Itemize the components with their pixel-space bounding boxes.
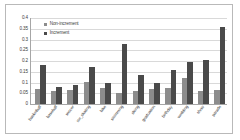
bar [73,85,78,104]
bar-group [179,18,195,104]
legend-item-increment: Increment [44,29,114,38]
x-tick-label: wedding [177,105,190,120]
x-tick-label: baseball [46,105,59,120]
x-axis: basketballbaseballsoccerice_skatingbikes… [31,105,227,134]
x-tick-cell: baseball [47,105,63,134]
legend-label-increment: Increment [50,31,70,36]
y-tick-label: 0 [8,102,28,107]
bar [138,75,143,104]
bar-group [130,18,146,104]
bar-group [212,18,228,104]
y-tick-label: 0.35 [8,26,28,31]
x-tick-label: birthday [161,105,173,119]
bar-group [195,18,211,104]
bar [122,44,127,104]
chart-container: 0.40.350.30.250.20.150.10.050 basketball… [5,4,233,134]
bar [89,67,94,104]
x-tick-cell: wedding [178,105,194,134]
bar [40,65,45,104]
bar-group [163,18,179,104]
x-tick-label: show [197,105,206,115]
bar [220,27,225,104]
x-tick-label: basketball [28,105,43,122]
bar [171,70,176,104]
y-tick-label: 0.05 [8,91,28,96]
bar-group [146,18,162,104]
bar [56,87,61,104]
y-tick-label: 0.3 [8,37,28,42]
y-axis: 0.40.350.30.250.20.150.10.050 [8,18,28,104]
y-tick-label: 0.15 [8,69,28,74]
x-tick-cell: birthday [162,105,178,134]
y-tick-label: 0.4 [8,16,28,21]
x-tick-cell: basketball [31,105,47,134]
y-tick-label: 0.2 [8,59,28,64]
x-tick-label: swimming [110,105,125,122]
legend-label-non-increment: Non-increment [50,22,79,27]
legend-item-non-increment: Non-increment [44,20,114,29]
bar [203,60,208,104]
bar-group [114,18,130,104]
bar [154,83,159,105]
x-tick-cell: parade [211,105,227,134]
chart-legend: Non-increment Increment [44,20,114,38]
legend-swatch-icon-increment [44,32,47,35]
y-tick-label: 0.1 [8,80,28,85]
legend-swatch-icon-non-increment [44,23,47,26]
x-tick-cell: swimming [113,105,129,134]
chart-plot-wrapper: 0.40.350.30.250.20.150.10.050 basketball… [6,5,234,135]
bar [187,62,192,104]
y-tick-label: 0.25 [8,48,28,53]
x-tick-cell: show [194,105,210,134]
x-tick-cell: graduation [145,105,161,134]
bar [105,83,110,105]
x-tick-cell: ice_skating [80,105,96,134]
x-tick-label: bike [100,105,108,114]
x-tick-label: parade [211,105,222,118]
x-tick-label: soccer [65,105,76,117]
x-tick-label: skiing [131,105,141,116]
